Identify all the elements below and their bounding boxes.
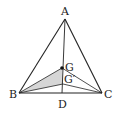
label-g-prime: G′: [64, 73, 76, 86]
label-d: D: [58, 98, 67, 111]
triangle-diagram: A B C D G G′: [0, 0, 119, 117]
label-a: A: [60, 5, 70, 18]
label-c: C: [104, 88, 112, 101]
label-b: B: [9, 88, 17, 101]
point-g-dot: [60, 66, 64, 70]
